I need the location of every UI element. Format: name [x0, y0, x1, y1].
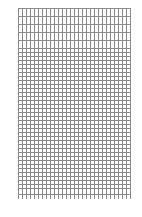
grid-horizontal-line: [18, 40, 130, 41]
grid-horizontal-line: [18, 176, 130, 177]
grid-horizontal-line: [18, 8, 130, 9]
grid-horizontal-line: [18, 80, 130, 81]
grid-horizontal-line: [18, 152, 130, 153]
grid-horizontal-line: [18, 24, 130, 25]
grid-horizontal-line: [18, 194, 130, 195]
grid-horizontal-line: [18, 108, 130, 109]
grid-horizontal-line: [18, 56, 130, 57]
grid-horizontal-line: [18, 164, 130, 165]
grid-horizontal-line: [18, 76, 130, 77]
grid-horizontal-line: [18, 144, 130, 145]
grid-horizontal-line: [18, 116, 130, 117]
grid-horizontal-line: [18, 156, 130, 157]
grid-horizontal-line: [18, 112, 130, 113]
grid-horizontal-line: [18, 136, 130, 137]
grid-horizontal-line: [18, 140, 130, 141]
grid-horizontal-line: [18, 52, 130, 53]
grid-horizontal-line: [18, 48, 130, 49]
grid-horizontal-line: [18, 184, 130, 185]
grid-horizontal-line: [18, 92, 130, 93]
grid-horizontal-line: [18, 88, 130, 89]
grid-horizontal-line: [18, 96, 130, 97]
grid-horizontal-line: [18, 84, 130, 85]
grid-horizontal-line: [18, 128, 130, 129]
grid-horizontal-line: [18, 188, 130, 189]
grid-horizontal-line: [18, 132, 130, 133]
grid-horizontal-line: [18, 124, 130, 125]
grid-vertical-line: [130, 8, 131, 199]
grid-horizontal-line: [18, 168, 130, 169]
grid-horizontal-line: [18, 72, 130, 73]
grid-horizontal-line: [18, 120, 130, 121]
grid-horizontal-line: [18, 16, 130, 17]
grid-horizontal-line: [18, 32, 130, 33]
grid-horizontal-line: [18, 148, 130, 149]
grid-horizontal-line: [18, 180, 130, 181]
grid-horizontal-line: [18, 160, 130, 161]
grid-horizontal-line: [18, 60, 130, 61]
grid-paper: [18, 8, 130, 199]
grid-horizontal-line: [18, 100, 130, 101]
grid-horizontal-line: [18, 68, 130, 69]
grid-horizontal-line: [18, 64, 130, 65]
grid-horizontal-line: [18, 172, 130, 173]
grid-horizontal-line: [18, 104, 130, 105]
